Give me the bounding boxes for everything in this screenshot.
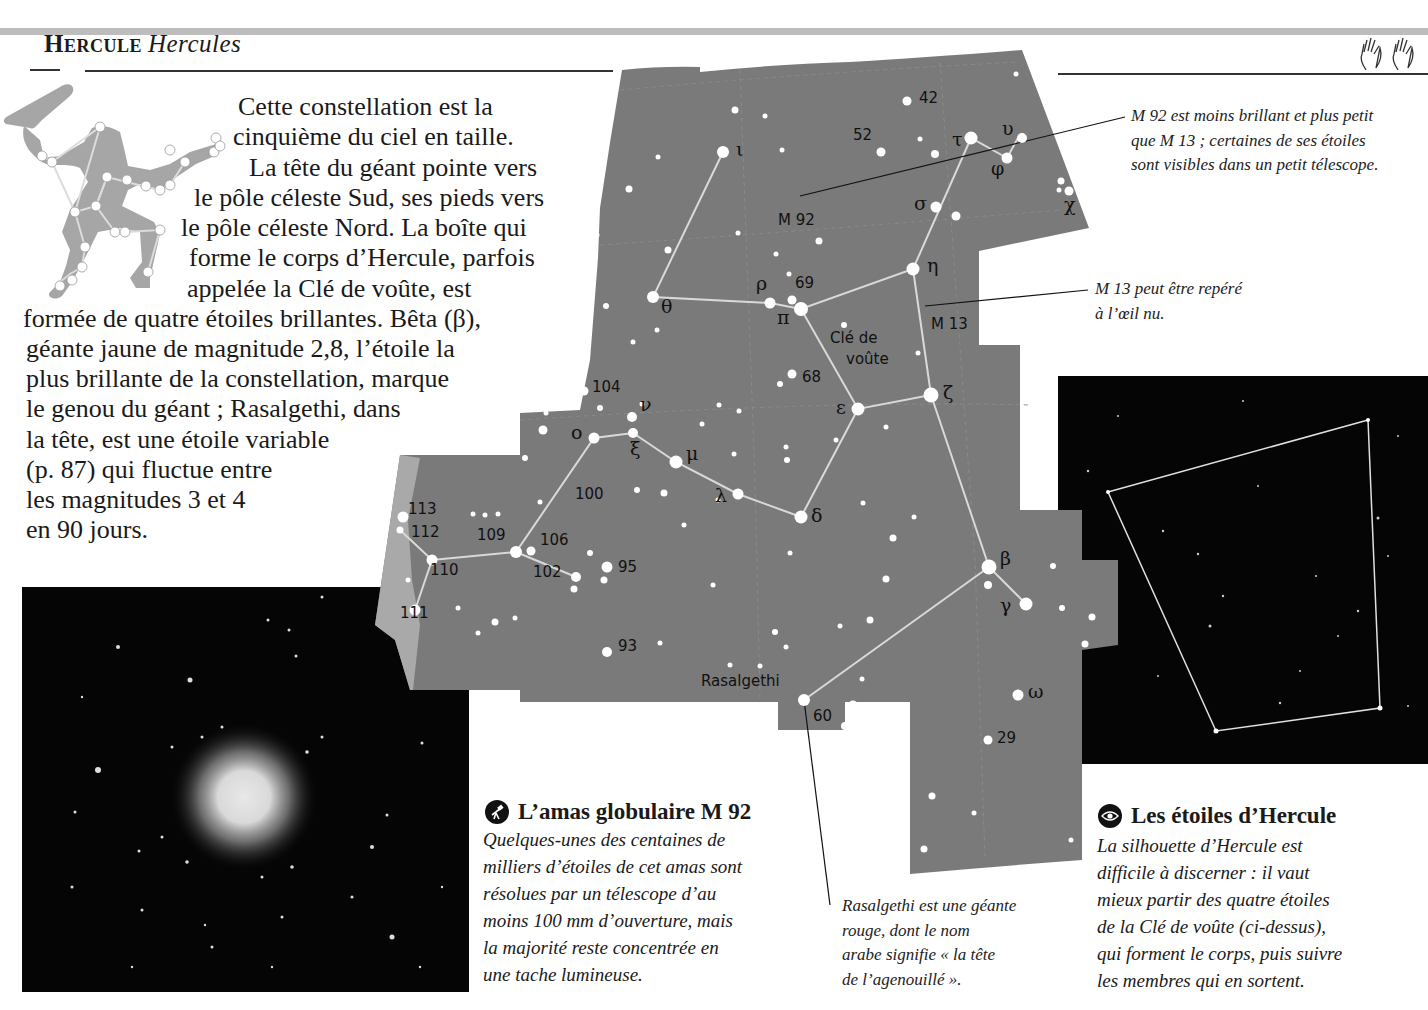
xi-label: ξ <box>630 437 640 459</box>
star-label-69: 69 <box>795 274 814 292</box>
m92-label: M 92 <box>778 211 815 229</box>
m92-callout: M 92 est moins brillant et plus petit qu… <box>1131 104 1378 178</box>
star-label-109: 109 <box>477 526 506 544</box>
callout-line: arabe signifie « la tête <box>842 943 1016 968</box>
iota-label: ι <box>736 138 743 160</box>
chi-label: χ <box>1064 193 1076 215</box>
star-label-60: 60 <box>813 707 832 725</box>
box-line: milliers d’étoiles de cet amas sont <box>483 853 742 880</box>
sigma-label: σ <box>914 192 927 214</box>
callout-line: de l’agenouillé ». <box>842 968 1016 993</box>
epsilon-label: ε <box>836 396 846 418</box>
lambda-label: λ <box>715 484 727 506</box>
upsilon-label: υ <box>1002 117 1014 139</box>
callout-line: à l’œil nu. <box>1095 302 1242 327</box>
star-label-52: 52 <box>853 126 872 144</box>
box-line: résolues par un télescope d’au <box>483 880 742 907</box>
phi-label: φ <box>991 157 1004 179</box>
stars-box-body: La silhouette d’Hercule est difficile à … <box>1097 832 1342 994</box>
star-label-42: 42 <box>919 89 938 107</box>
mu-label: μ <box>686 442 698 464</box>
star-label-111: 111 <box>400 604 429 622</box>
box-line: les membres qui en sortent. <box>1097 967 1342 994</box>
box-line: La silhouette d’Hercule est <box>1097 832 1342 859</box>
keystone-label-line2: voûte <box>846 350 889 368</box>
star-label-29: 29 <box>997 729 1016 747</box>
gamma-label: γ <box>1000 594 1011 616</box>
m92-box-title: L’amas globulaire M 92 <box>485 799 751 825</box>
tau-label: τ <box>952 128 963 150</box>
star-label-110: 110 <box>430 561 459 579</box>
callout-line: sont visibles dans un petit télescope. <box>1131 153 1378 178</box>
rho-label: ρ <box>756 272 767 294</box>
box-line: mieux partir des quatre étoiles <box>1097 886 1342 913</box>
stars-box-title: Les étoiles d’Hercule <box>1098 803 1336 829</box>
box-line: de la Clé de voûte (ci-dessus), <box>1097 913 1342 940</box>
star-label-112: 112 <box>411 523 440 541</box>
nu-label: ν <box>640 393 652 415</box>
star-label-100: 100 <box>575 485 604 503</box>
callout-line: Rasalgethi est une géante <box>842 894 1016 919</box>
stars-box-heading: Les étoiles d’Hercule <box>1131 803 1336 829</box>
callout-line: M 13 peut être repéré <box>1095 277 1242 302</box>
theta-label: θ <box>661 295 672 317</box>
star-label-93: 93 <box>618 637 637 655</box>
delta-label: δ <box>811 504 822 526</box>
star-label-68: 68 <box>802 368 821 386</box>
beta-label: β <box>1000 547 1011 569</box>
callout-line: M 92 est moins brillant et plus petit <box>1131 104 1378 129</box>
eye-icon <box>1098 804 1122 828</box>
box-line: une tache lumineuse. <box>483 961 742 988</box>
m13-callout: M 13 peut être repéré à l’œil nu. <box>1095 277 1242 326</box>
rasalgethi-label: Rasalgethi <box>701 672 780 690</box>
box-line: moins 100 mm d’ouverture, mais <box>483 907 742 934</box>
omega-label: ω <box>1028 680 1044 702</box>
rasalgethi-callout: Rasalgethi est une géante rouge, dont le… <box>842 894 1016 992</box>
chart-region <box>375 50 1118 874</box>
omicron-label: ο <box>571 421 582 443</box>
m92-box-body: Quelques-unes des centaines de milliers … <box>483 826 742 988</box>
pi-label: π <box>777 306 790 328</box>
m13-label: M 13 <box>931 315 968 333</box>
eta-label: η <box>927 254 938 276</box>
zeta-label: ζ <box>943 381 953 403</box>
box-line: la majorité reste concentrée en <box>483 934 742 961</box>
box-line: qui forment le corps, puis suivre <box>1097 940 1342 967</box>
box-line: Quelques-unes des centaines de <box>483 826 742 853</box>
box-line: difficile à discerner : il vaut <box>1097 859 1342 886</box>
star-label-104: 104 <box>592 378 621 396</box>
star-label-113: 113 <box>408 500 437 518</box>
star-label-106: 106 <box>540 531 569 549</box>
star-label-102: 102 <box>533 563 562 581</box>
callout-line: rouge, dont le nom <box>842 919 1016 944</box>
m92-box-heading: L’amas globulaire M 92 <box>518 799 751 825</box>
callout-line: que M 13 ; certaines de ses étoiles <box>1131 129 1378 154</box>
star-label-95: 95 <box>618 558 637 576</box>
telescope-icon <box>485 800 509 824</box>
keystone-label-line1: Clé de <box>830 329 877 347</box>
